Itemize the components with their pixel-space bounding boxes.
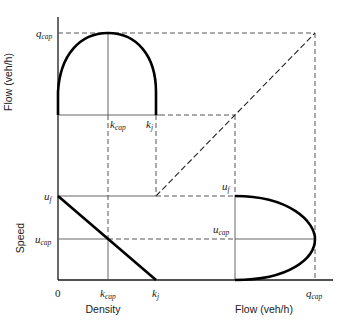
flow-density-curve <box>58 33 156 115</box>
flow-x-axis-label: Flow (veh/h) <box>235 303 293 315</box>
speed-flow-panel: uf ucap qcap Flow (veh/h) <box>160 180 333 315</box>
uf-label-right: uf <box>222 180 231 194</box>
fundamental-diagram: Flow (veh/h) qcap kcap kj Speed uf ucap … <box>0 0 349 328</box>
speed-density-line <box>58 196 156 280</box>
kcap-label-upper: kcap <box>110 118 126 132</box>
speed-density-panel: Speed uf ucap 0 kcap kj Density <box>14 190 235 315</box>
ucap-label: ucap <box>35 233 52 247</box>
origin-label: 0 <box>55 287 61 299</box>
flow-axis-label: Flow (veh/h) <box>2 53 14 111</box>
speed-axis-label: Speed <box>14 223 26 254</box>
qcap-label: qcap <box>36 27 53 41</box>
ucap-label-right: ucap <box>213 223 230 237</box>
kj-label-lower: kj <box>152 287 159 301</box>
kj-label-upper: kj <box>146 118 153 132</box>
uf-label: uf <box>44 190 53 204</box>
density-axis-label: Density <box>85 303 121 315</box>
qcap-label-right: qcap <box>306 287 323 301</box>
kcap-label-lower: kcap <box>100 287 116 301</box>
speed-flow-curve <box>235 196 315 280</box>
